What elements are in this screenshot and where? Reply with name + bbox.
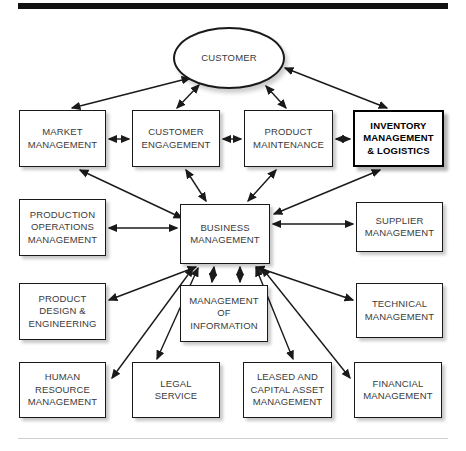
node-label-prodops: PRODUCTION OPERATIONS MANAGEMENT [26, 209, 100, 247]
node-prodops[interactable]: PRODUCTION OPERATIONS MANAGEMENT [19, 199, 106, 256]
node-leased[interactable]: LEASED AND CAPITAL ASSET MANAGEMENT [243, 362, 332, 418]
diagram-canvas: CUSTOMERMARKET MANAGEMENTCUSTOMER ENGAGE… [0, 0, 466, 451]
node-label-customer: CUSTOMER [199, 52, 258, 65]
node-label-infomgmt: MANAGEMENT OF INFORMATION [187, 295, 261, 333]
edge-business-to-technical [256, 267, 353, 300]
node-label-inventory: INVENTORY MANAGEMENT & LOGISTICS [361, 120, 436, 158]
node-design[interactable]: PRODUCT DESIGN & ENGINEERING [19, 283, 106, 340]
node-legal[interactable]: LEGAL SERVICE [132, 362, 220, 418]
node-label-engage: CUSTOMER ENGAGEMENT [139, 126, 212, 151]
node-label-business: BUSINESS MANAGEMENT [188, 222, 262, 247]
node-label-legal: LEGAL SERVICE [153, 378, 200, 403]
node-label-hr: HUMAN RESOURCE MANAGEMENT [26, 371, 100, 409]
node-label-technical: TECHNICAL MANAGEMENT [363, 298, 437, 323]
edge-prodmaint-to-customer [266, 86, 286, 108]
edge-inventory-to-customer [285, 68, 387, 108]
node-label-design: PRODUCT DESIGN & ENGINEERING [26, 293, 98, 331]
edge-engage-to-customer [177, 85, 199, 108]
node-label-market: MARKET MANAGEMENT [26, 126, 100, 151]
node-supplier[interactable]: SUPPLIER MANAGEMENT [356, 202, 443, 252]
node-label-supplier: SUPPLIER MANAGEMENT [363, 215, 437, 240]
node-label-financial: FINANCIAL MANAGEMENT [361, 378, 435, 403]
node-business[interactable]: BUSINESS MANAGEMENT [180, 204, 270, 264]
edge-infomgmt-to-business [212, 267, 214, 282]
node-prodmaint[interactable]: PRODUCT MAINTENANCE [244, 110, 333, 167]
node-technical[interactable]: TECHNICAL MANAGEMENT [356, 283, 443, 338]
node-financial[interactable]: FINANCIAL MANAGEMENT [354, 362, 442, 418]
node-label-leased: LEASED AND CAPITAL ASSET MANAGEMENT [249, 371, 327, 409]
edge-engage-to-business [186, 170, 206, 201]
node-infomgmt[interactable]: MANAGEMENT OF INFORMATION [180, 285, 268, 342]
node-hr[interactable]: HUMAN RESOURCE MANAGEMENT [19, 362, 106, 418]
edge-prodmaint-to-business [248, 170, 276, 201]
edge-market-to-customer [72, 78, 190, 108]
node-market[interactable]: MARKET MANAGEMENT [19, 110, 106, 167]
node-inventory[interactable]: INVENTORY MANAGEMENT & LOGISTICS [353, 110, 444, 167]
node-customer[interactable]: CUSTOMER [173, 27, 285, 89]
node-label-prodmaint: PRODUCT MAINTENANCE [251, 126, 326, 151]
node-engage[interactable]: CUSTOMER ENGAGEMENT [132, 110, 220, 167]
